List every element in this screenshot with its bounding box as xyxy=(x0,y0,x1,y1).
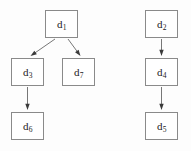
node-label-subscript: 3 xyxy=(29,71,33,80)
node-label-base: d xyxy=(23,120,29,132)
node-label-base: d xyxy=(74,66,80,78)
node-label-subscript: 5 xyxy=(163,125,167,134)
node-label-subscript: 7 xyxy=(80,71,84,80)
node-label-d6: d6 xyxy=(23,121,32,132)
edge-d1-d3 xyxy=(31,39,56,56)
node-label-base: d xyxy=(57,18,63,30)
arrowhead-icon xyxy=(159,104,163,110)
node-label-d7: d7 xyxy=(74,67,83,78)
arrowhead-icon xyxy=(31,51,37,56)
node-d4[interactable]: d4 xyxy=(145,58,178,86)
edge-line xyxy=(35,39,55,53)
node-label-subscript: 2 xyxy=(163,23,167,32)
node-d5[interactable]: d5 xyxy=(145,112,178,140)
node-d1[interactable]: d1 xyxy=(45,10,78,38)
node-label-subscript: 6 xyxy=(29,125,33,134)
node-label-base: d xyxy=(157,120,163,132)
node-label-subscript: 1 xyxy=(63,23,67,32)
edge-d1-d7 xyxy=(68,39,81,56)
node-label-base: d xyxy=(157,18,163,30)
node-label-d3: d3 xyxy=(23,67,32,78)
node-d2[interactable]: d2 xyxy=(145,10,178,38)
node-label-base: d xyxy=(157,66,163,78)
node-label-d4: d4 xyxy=(157,67,166,78)
node-d7[interactable]: d7 xyxy=(62,58,95,86)
node-d3[interactable]: d3 xyxy=(11,58,44,86)
node-d6[interactable]: d6 xyxy=(11,112,44,140)
edge-line xyxy=(68,39,78,52)
edge-d3-d6 xyxy=(25,87,29,110)
node-label-d5: d5 xyxy=(157,121,166,132)
node-label-d2: d2 xyxy=(157,19,166,30)
diagram-canvas: d1d3d7d6d2d4d5 xyxy=(0,0,191,151)
arrowhead-icon xyxy=(159,50,163,56)
node-label-subscript: 4 xyxy=(163,71,167,80)
node-label-base: d xyxy=(23,66,29,78)
edge-d2-d4 xyxy=(159,39,163,56)
edge-d4-d5 xyxy=(159,87,163,110)
arrowhead-icon xyxy=(75,50,80,56)
node-label-d1: d1 xyxy=(57,19,66,30)
arrowhead-icon xyxy=(25,104,29,110)
